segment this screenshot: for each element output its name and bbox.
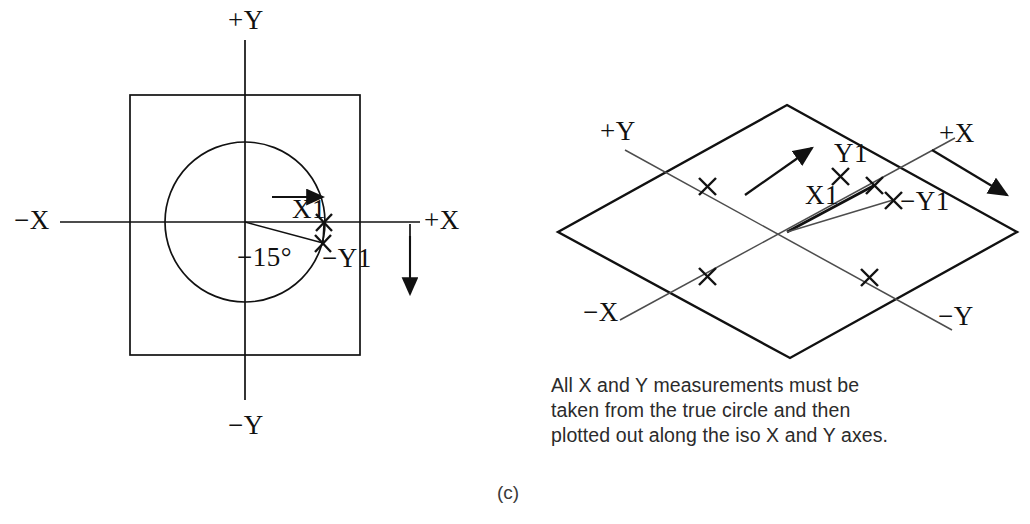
right-annotation-y1: Y1 [834, 140, 868, 167]
left-axis-label-minus-x: −X [14, 207, 50, 234]
left-annotation-minus-y1: −Y1 [322, 245, 372, 272]
right-tick-mark-minus-y [861, 269, 878, 286]
right-axis-label-minus-y: −Y [938, 303, 974, 330]
figure-canvas: +Y −Y −X +X X1 −Y1 −15° +Y +X −X −Y Y1 X… [0, 0, 1030, 524]
figure-caption-text: All X and Y measurements must be taken f… [551, 373, 888, 448]
left-diagram-group [60, 40, 420, 400]
left-axis-label-minus-y: −Y [228, 412, 264, 439]
right-axis-label-minus-x: −X [583, 299, 619, 326]
right-iso-y-axis [625, 150, 952, 330]
right-annotation-minus-y1: −Y1 [900, 188, 950, 215]
left-annotation-angle: −15° [237, 244, 292, 271]
right-axis-label-plus-y: +Y [600, 118, 636, 145]
left-annotation-x1: X1 [292, 196, 326, 223]
subfigure-label: (c) [497, 482, 519, 504]
left-y1-offset-connector [323, 223, 324, 243]
right-axis-label-plus-x: +X [939, 120, 975, 147]
right-direction-arrow [745, 148, 812, 195]
left-axis-label-plus-y: +Y [228, 7, 264, 34]
left-axis-label-plus-x: +X [424, 207, 460, 234]
right-tick-mark-plus-y [699, 178, 716, 195]
left-angle-radius-line [245, 222, 323, 243]
right-annotation-x1: X1 [805, 182, 839, 209]
